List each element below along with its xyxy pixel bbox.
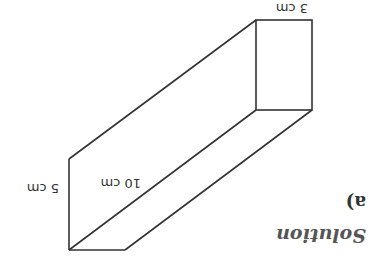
cuboid-figure — [0, 0, 374, 271]
edge-bottom-right — [69, 20, 256, 159]
edge-top-right — [69, 110, 256, 250]
height-label: 5 cm — [27, 181, 59, 196]
width-label: 3 cm — [276, 1, 308, 16]
edge-top-left — [125, 110, 312, 250]
front-face — [256, 20, 312, 110]
rotated-content: Solution a) 3 cm 10 cm 5 cm — [0, 0, 374, 271]
diagram-canvas: Solution a) 3 cm 10 cm 5 cm — [0, 0, 374, 271]
length-label: 10 cm — [101, 176, 142, 191]
